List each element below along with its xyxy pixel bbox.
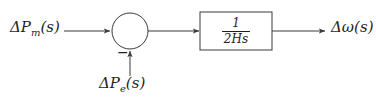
disturbance-label: ΔPe(s) — [99, 76, 145, 94]
output-label-symbol: Δω — [331, 18, 354, 36]
block-diagram: ΔPm(s) − 1 2Hs ΔPe(s) Δω(s) — [0, 0, 376, 99]
summing-junction-minus-sign: − — [117, 45, 129, 59]
input-label: ΔPm(s) — [10, 20, 60, 38]
disturbance-label-argument: (s) — [126, 74, 145, 92]
fraction-denominator: 2Hs — [224, 32, 248, 46]
input-label-argument: (s) — [40, 18, 59, 36]
transfer-function-expression: 1 2Hs — [200, 12, 272, 50]
input-label-symbol: ΔP — [10, 18, 31, 36]
fraction-numerator: 1 — [232, 17, 240, 31]
output-label: Δω(s) — [331, 20, 373, 35]
output-label-argument: (s) — [354, 18, 373, 36]
input-label-subscript: m — [31, 27, 40, 38]
diagram-canvas — [0, 0, 376, 99]
disturbance-label-symbol: ΔP — [99, 74, 120, 92]
